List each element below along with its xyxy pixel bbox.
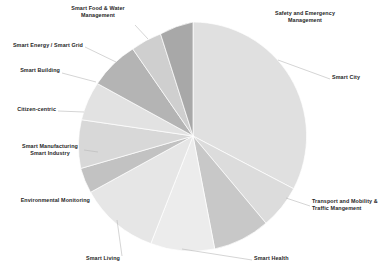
pie-slices [78,22,306,251]
leader-line-transport-mobility [286,198,310,206]
pie-chart-canvas [0,0,380,275]
pie-chart-figure: Safety and Emergency Management Smart Ci… [0,0,380,275]
leader-line-smart-food-water [135,25,148,39]
leader-line-smart-building [62,73,96,82]
leader-line-citizen-centric [58,111,84,112]
leader-line-smart-energy [85,47,116,62]
leader-line-smart-health [182,249,252,260]
